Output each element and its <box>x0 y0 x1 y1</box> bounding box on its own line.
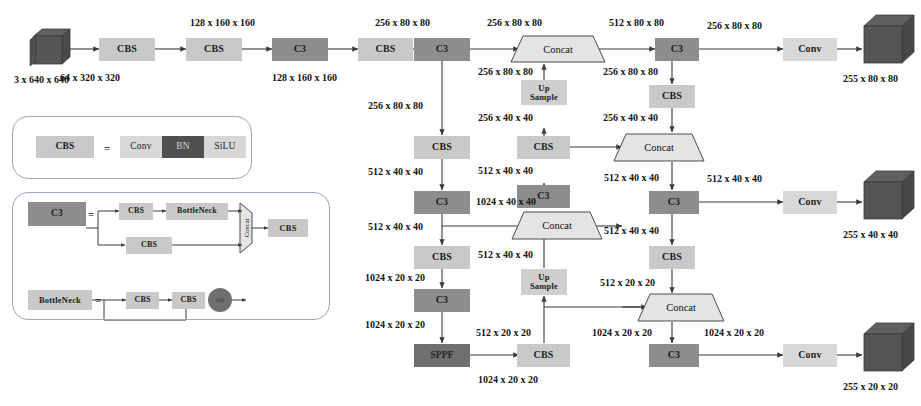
node-cbs-head-top[interactable]: CBS <box>649 85 695 108</box>
label-128-160-160-top: 128 x 160 x 160 <box>190 17 255 28</box>
node-label: Conv <box>798 350 822 361</box>
label-256-80-80-top: 256 x 80 x 80 <box>375 17 430 28</box>
legend-c3-equals: = <box>88 208 94 220</box>
node-label: Concat <box>666 302 696 313</box>
node-concat-right-mid[interactable]: Concat <box>614 134 704 161</box>
node-c3-1[interactable]: C3 <box>272 38 328 61</box>
node-cbs4[interactable]: CBS <box>414 136 470 159</box>
node-upsample-top[interactable]: Up Sample <box>521 80 567 105</box>
neck-label-14: 1024 x 20 x 20 <box>592 327 652 338</box>
legend-cbs-equals: = <box>104 142 110 154</box>
node-label: CBS <box>662 91 682 102</box>
legend-cbs-conv[interactable]: Conv <box>120 136 162 158</box>
node-c3-4[interactable]: C3 <box>414 289 470 312</box>
legend-bottleneck-equals: = <box>95 294 101 306</box>
node-label: Conv <box>798 44 822 55</box>
legend-c3-cbs-bot[interactable]: CBS <box>126 237 172 254</box>
neck-label-13: 1024 x 20 x 20 <box>478 374 538 385</box>
neck-label-3: 256 x 80 x 80 <box>603 66 658 77</box>
node-label: C3 <box>537 191 550 202</box>
node-label: BottleNeck <box>177 207 217 215</box>
node-concat-right-bot[interactable]: Concat <box>638 294 724 321</box>
node-cbs3[interactable]: CBS <box>358 38 413 61</box>
node-cbs2[interactable]: CBS <box>186 38 242 61</box>
legend-bottleneck-add-node[interactable]: add <box>208 288 232 312</box>
legend-c3-output-cbs[interactable]: CBS <box>268 219 308 237</box>
node-label: CBS <box>533 142 553 153</box>
node-concat-mid[interactable]: Concat <box>512 212 602 239</box>
legend-c3-bottleneck[interactable]: BottleNeck <box>166 203 228 220</box>
head-out-label-bot: 255 x 20 x 20 <box>843 381 898 392</box>
head-conv-mid[interactable]: Conv <box>783 191 837 214</box>
neck-label-6: 512 x 40 x 40 <box>478 165 533 176</box>
input-cube <box>28 24 76 68</box>
node-label: C3 <box>436 44 449 55</box>
label-512-40-40-v1: 512 x 40 x 40 <box>368 166 423 177</box>
legend-cbs-bn[interactable]: BN <box>162 136 204 158</box>
legend-c3-box[interactable]: C3 <box>28 202 86 226</box>
node-label: CBS <box>204 44 224 55</box>
node-label: SiLU <box>214 142 235 152</box>
output-cube-top <box>860 12 918 68</box>
neck-label-4: 256 x 40 x 40 <box>478 112 533 123</box>
neck-label-0: 256 x 80 x 80 <box>487 17 542 28</box>
node-cbs1[interactable]: CBS <box>99 38 155 61</box>
legend-c3-concat-label: Concat <box>240 203 253 253</box>
label-128-160-160-bot: 128 x 160 x 160 <box>272 72 337 83</box>
legend-bottleneck-cbs1[interactable]: CBS <box>126 292 159 309</box>
node-cbs-head-mid[interactable]: CBS <box>649 246 695 269</box>
node-label: Concat <box>644 142 674 153</box>
legend-c3-cbs-top[interactable]: CBS <box>119 203 153 220</box>
node-concat-top[interactable]: Concat <box>511 36 605 62</box>
node-label: Conv <box>130 142 151 152</box>
head-out-label-mid: 255 x 40 x 40 <box>843 229 898 240</box>
node-c3-3[interactable]: C3 <box>414 191 470 214</box>
node-c3-head-bot[interactable]: C3 <box>649 344 699 367</box>
node-label: BottleNeck <box>39 296 81 305</box>
legend-cbs-silu[interactable]: SiLU <box>204 136 246 158</box>
label-256-80-80-v: 256 x 80 x 80 <box>368 100 423 111</box>
node-label: CBS <box>432 252 452 263</box>
head-in-label-top: 256 x 80 x 80 <box>707 20 762 31</box>
node-label: CBS <box>180 296 196 304</box>
upsample-line2: Sample <box>530 93 558 102</box>
legend-bottleneck-box[interactable]: BottleNeck <box>28 290 92 310</box>
neck-label-12: 512 x 20 x 20 <box>600 277 655 288</box>
legend-cbs-box[interactable]: CBS <box>36 136 94 158</box>
node-label: Concat <box>543 44 573 55</box>
node-label: C3 <box>294 44 307 55</box>
node-label: C3 <box>436 295 449 306</box>
node-label: C3 <box>668 197 681 208</box>
node-c3-head-mid[interactable]: C3 <box>649 191 699 214</box>
node-label: CBS <box>55 142 74 152</box>
node-label: BN <box>176 142 190 152</box>
node-cbs5[interactable]: CBS <box>414 246 470 269</box>
neck-label-2: 256 x 80 x 80 <box>478 66 533 77</box>
node-label: CBS <box>533 350 553 361</box>
node-label: Concat <box>243 219 250 237</box>
head-in-label-bot: 1024 x 20 x 20 <box>704 327 764 338</box>
neck-label-5: 256 x 40 x 40 <box>603 112 658 123</box>
label-64-320-320: 64 x 320 x 320 <box>60 72 120 83</box>
neck-label-8: 512 x 40 x 40 <box>604 172 659 183</box>
node-label: CBS <box>128 207 144 215</box>
node-c3-head-top[interactable]: C3 <box>655 38 699 61</box>
neck-label-10: 512 x 40 x 40 <box>604 225 659 236</box>
neck-label-11: 512 x 20 x 20 <box>476 327 531 338</box>
output-cube-mid <box>860 168 918 224</box>
node-cbs-mid1[interactable]: CBS <box>517 136 570 159</box>
head-conv-top[interactable]: Conv <box>783 38 837 61</box>
neck-label-7: 1024 x 40 x 40 <box>476 196 536 207</box>
label-1024-20-20-v1: 1024 x 20 x 20 <box>365 272 425 283</box>
node-cbs-bot[interactable]: CBS <box>517 344 570 367</box>
node-label: Concat <box>542 220 572 231</box>
neck-label-9: 512 x 40 x 40 <box>478 249 533 260</box>
node-sppf[interactable]: SPPF <box>414 344 470 367</box>
node-c3-2[interactable]: C3 <box>414 38 470 61</box>
head-conv-bot[interactable]: Conv <box>783 344 837 367</box>
legend-bottleneck-cbs2[interactable]: CBS <box>172 292 205 309</box>
node-upsample-bot[interactable]: Up Sample <box>521 269 567 295</box>
node-label: CBS <box>134 296 150 304</box>
node-label: CBS <box>662 252 682 263</box>
node-label: CBS <box>117 44 137 55</box>
